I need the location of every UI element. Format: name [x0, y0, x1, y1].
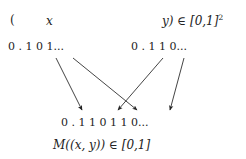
y-binary-expansion: 0 . 1 1 0... — [131, 41, 187, 52]
digit-arrow — [170, 58, 184, 110]
pair-x-symbol: x — [46, 15, 53, 27]
pair-y-domain-text: y) ∈ [0,1] — [162, 14, 218, 28]
result-label: M((x, y)) ∈ [0,1] — [53, 139, 150, 151]
digit-arrow — [73, 58, 137, 110]
pair-open-paren: ( — [10, 14, 15, 26]
x-binary-expansion: 0 . 1 0 1... — [8, 41, 64, 52]
digit-arrow — [56, 58, 82, 110]
interleaved-binary-expansion: 0 . 1 1 0 1 1 0... — [61, 117, 148, 128]
domain-exponent: 2 — [218, 13, 223, 22]
pair-y-domain: y) ∈ [0,1]2 — [162, 14, 223, 27]
interleaving-diagram: ( x y) ∈ [0,1]2 0 . 1 0 1... 0 . 1 1 0..… — [0, 0, 246, 159]
digit-arrow — [118, 58, 163, 110]
